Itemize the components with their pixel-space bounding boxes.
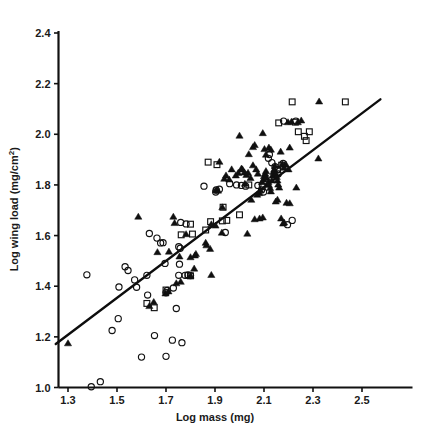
data-point	[190, 231, 196, 237]
data-point	[177, 278, 184, 284]
y-tick-label-1.2: 1.2	[35, 331, 50, 343]
y-tick-label-1.0: 1.0	[35, 382, 50, 394]
data-point	[262, 168, 269, 174]
data-point	[154, 249, 161, 255]
y-axis-title-main: Log wing load (mg/cm	[8, 155, 20, 271]
data-point	[286, 144, 293, 150]
data-point	[97, 379, 103, 385]
y-axis-title-tail: )	[8, 147, 20, 151]
data-point	[295, 129, 301, 135]
data-point	[289, 217, 295, 223]
y-tick-label-2.0: 2.0	[35, 128, 50, 140]
x-axis-tick-labels: 1.31.51.71.92.12.32.5	[60, 394, 369, 406]
x-axis-title: Log mass (mg)	[176, 411, 255, 423]
data-point	[245, 151, 252, 157]
data-point	[176, 272, 182, 278]
data-point	[342, 99, 348, 105]
x-tick-label-2.1: 2.1	[256, 394, 271, 406]
data-point	[132, 277, 138, 283]
data-point	[145, 292, 151, 298]
data-point	[244, 230, 251, 236]
data-point	[316, 98, 323, 104]
y-axis-title: Log wing load (mg/cm2)	[7, 147, 20, 272]
x-tick-label-1.5: 1.5	[109, 394, 124, 406]
data-point	[289, 99, 295, 105]
x-tick-label-2.3: 2.3	[305, 394, 320, 406]
data-point	[176, 261, 182, 267]
data-point	[293, 184, 300, 190]
data-point	[191, 265, 198, 271]
series-open-circle	[84, 118, 299, 390]
y-tick-label-1.4: 1.4	[35, 280, 51, 292]
data-point	[205, 159, 211, 165]
data-point	[134, 284, 140, 290]
plot-canvas: 1.01.21.41.61.82.02.22.4 1.31.51.71.92.1…	[0, 0, 421, 437]
data-point	[84, 272, 90, 278]
y-tick-label-2.4: 2.4	[35, 27, 51, 39]
data-point	[135, 213, 142, 219]
data-point	[169, 337, 175, 343]
tick-marks-group	[54, 33, 362, 392]
data-point	[109, 327, 115, 333]
data-point	[236, 132, 243, 138]
regression-fit-line	[56, 99, 381, 344]
data-point	[277, 148, 284, 154]
data-point	[228, 166, 235, 172]
data-point	[116, 284, 122, 290]
regression-line	[56, 99, 381, 344]
wing-load-scatter-figure: 1.01.21.41.61.82.02.22.4 1.31.51.71.92.1…	[0, 0, 421, 437]
x-tick-label-1.7: 1.7	[158, 394, 173, 406]
series-open-square	[144, 99, 348, 311]
data-point	[208, 271, 215, 277]
data-point	[237, 212, 243, 218]
data-point	[176, 244, 182, 250]
data-point	[151, 332, 157, 338]
data-point	[259, 130, 266, 136]
data-point	[150, 299, 157, 305]
data-point	[179, 340, 185, 346]
data-point	[303, 138, 309, 144]
data-point	[165, 248, 172, 254]
y-tick-label-1.6: 1.6	[35, 230, 50, 242]
data-markers-group	[64, 98, 348, 390]
data-point	[315, 155, 322, 161]
data-point	[138, 354, 144, 360]
x-tick-label-1.9: 1.9	[207, 394, 222, 406]
data-point	[115, 316, 121, 322]
data-point	[192, 250, 199, 256]
y-tick-label-1.8: 1.8	[35, 179, 50, 191]
y-tick-label-2.2: 2.2	[35, 78, 50, 90]
data-point	[173, 305, 179, 311]
data-point	[64, 340, 71, 346]
data-point	[163, 353, 169, 359]
y-axis-tick-labels: 1.01.21.41.61.82.02.22.4	[35, 27, 51, 394]
data-point	[170, 213, 177, 219]
data-point	[146, 230, 152, 236]
x-tick-label-1.3: 1.3	[60, 394, 75, 406]
x-tick-label-2.5: 2.5	[354, 394, 369, 406]
data-point	[201, 183, 207, 189]
